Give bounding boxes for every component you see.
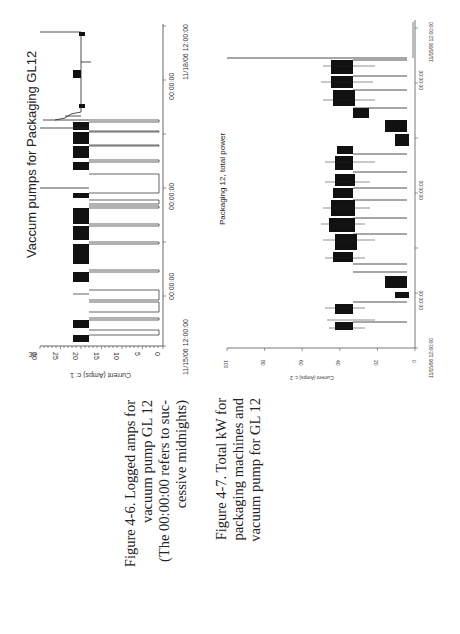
x-tick-midnight-1: 00:00:00: [168, 273, 175, 300]
x-tick-midnight-2: 00:00:00: [418, 181, 424, 200]
caption-line: Figure 4-7. Total kW for: [213, 398, 230, 598]
y-tick-80: 80: [260, 360, 266, 366]
y-tick-15: 15: [93, 352, 100, 360]
figure-4-6-chart: 30: [35, 22, 175, 352]
caption-line: (The 00:00:00 refers to suc-: [156, 400, 173, 632]
x-tick-midnight-1: 00:00:00: [418, 291, 424, 310]
y-tick-0: 0: [411, 360, 417, 363]
y-tick-10: 10: [113, 352, 120, 360]
caption-line: packaging machines and: [230, 398, 247, 598]
figure-4-7-chart: [225, 18, 420, 358]
y-tick-20: 20: [72, 352, 79, 360]
figure-4-6-ylabel: Current (Amps) c: 1: [70, 372, 131, 379]
power-plot-svg: [225, 18, 420, 358]
y-tick-20: 20: [373, 360, 379, 366]
x-tick-midnight-2: 00:00:00: [168, 183, 175, 210]
caption-line: Figure 4-6. Logged amps for: [122, 400, 139, 632]
y-tick-40: 40: [335, 360, 341, 366]
y-tick-100: 100: [223, 360, 229, 368]
amps-plot-svg: [35, 22, 175, 352]
y-tick-0: 0: [154, 352, 161, 356]
caption-line: vacuum pump for GL 12: [247, 398, 264, 598]
caption-line: cessive midnights): [173, 400, 190, 632]
x-tick-end: 11/18/06 12:00:00: [182, 24, 189, 80]
y-tick-25: 25: [52, 352, 59, 360]
figure-4-7-title: Packaging 12, total power: [218, 133, 227, 225]
x-tick-midnight-3: 00:00:00: [418, 71, 424, 90]
figure-4-6-title: Vaccum pumps for Packaging GL12: [24, 51, 39, 258]
y-tick-60: 60: [298, 360, 304, 366]
caption-line: vacuum pump GL 12: [139, 400, 156, 632]
figure-4-7-caption: Figure 4-7. Total kW for packaging machi…: [213, 398, 264, 598]
x-tick-midnight-3: 00:00:00: [168, 73, 175, 100]
x-tick-start: 11/15/06 12:00:00: [182, 319, 189, 375]
figure-4-6-caption: Figure 4-6. Logged amps for vacuum pump …: [122, 400, 190, 632]
x-tick-end: 11/18/06 12:00:00: [428, 22, 434, 62]
y-tick-30: 30: [31, 352, 38, 360]
figure-4-7-ylabel: Current (Amps) c: 2: [290, 375, 334, 381]
y-tick-5: 5: [134, 352, 141, 356]
x-tick-start: 11/15/06 12:00:00: [428, 338, 434, 378]
